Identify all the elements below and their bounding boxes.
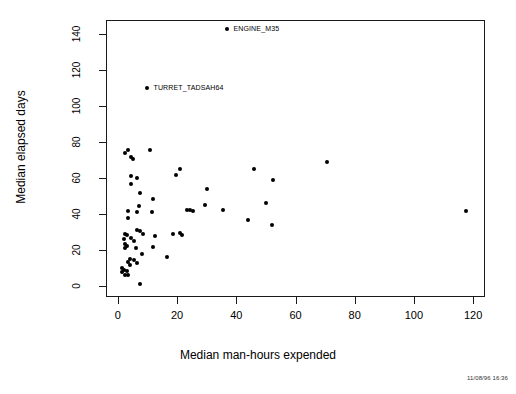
y-tick-label: 40 xyxy=(62,208,92,220)
y-tick-label: 100 xyxy=(62,100,92,112)
y-axis-title-wrap: Median elapsed days xyxy=(0,139,121,155)
point-annotation-label: TURRET_TADSAH64 xyxy=(153,84,223,91)
x-tick-mark xyxy=(177,297,178,304)
x-tick-label: 40 xyxy=(216,309,256,322)
y-tick-label-text: 140 xyxy=(71,19,83,49)
point-annotation-label: ENGINE_M35 xyxy=(233,25,279,32)
y-tick-label: 20 xyxy=(62,244,92,256)
y-tick-label: 120 xyxy=(62,64,92,76)
y-tick-label-text: 100 xyxy=(71,91,83,121)
plot-frame xyxy=(106,20,485,297)
y-tick-mark xyxy=(99,106,106,107)
y-tick-label-text: 40 xyxy=(71,199,83,229)
y-tick-mark xyxy=(99,214,106,215)
timestamp-footer: 11/08/96 16:36 xyxy=(467,374,508,382)
x-tick-label: 0 xyxy=(98,309,138,322)
y-tick-label: 60 xyxy=(62,172,92,184)
y-tick-label-text: 120 xyxy=(71,55,83,85)
x-tick-label: 120 xyxy=(453,309,493,322)
x-tick-mark xyxy=(355,297,356,304)
x-tick-label: 100 xyxy=(394,309,434,322)
y-tick-mark xyxy=(99,286,106,287)
y-tick-label: 140 xyxy=(62,28,92,40)
x-tick-label: 20 xyxy=(157,309,197,322)
x-tick-mark xyxy=(296,297,297,304)
y-axis-title: Median elapsed days xyxy=(13,47,29,247)
x-axis-title: Median man-hours expended xyxy=(0,348,516,362)
x-tick-mark xyxy=(414,297,415,304)
y-tick-mark xyxy=(99,34,106,35)
y-tick-mark xyxy=(99,250,106,251)
y-tick-label: 0 xyxy=(62,280,92,292)
y-tick-label-text: 20 xyxy=(71,235,83,265)
y-tick-label-text: 60 xyxy=(71,163,83,193)
scatter-chart-figure: 020406080100120140 020406080100120 ENGIN… xyxy=(0,0,516,394)
x-tick-label: 80 xyxy=(335,309,375,322)
y-tick-mark xyxy=(99,70,106,71)
x-tick-mark xyxy=(473,297,474,304)
x-tick-label: 60 xyxy=(276,309,316,322)
y-tick-mark xyxy=(99,178,106,179)
x-tick-mark xyxy=(118,297,119,304)
x-tick-mark xyxy=(236,297,237,304)
y-tick-label-text: 0 xyxy=(71,271,83,301)
